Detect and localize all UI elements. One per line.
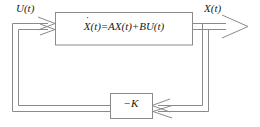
term-b: BU [139, 20, 154, 32]
plant-equation: ˙X(t)=AX(t)+BU(t) [56, 21, 192, 32]
term-a-argument: (t) [122, 20, 132, 32]
term-b-argument: (t) [154, 20, 164, 32]
output-arrowhead [222, 15, 248, 38]
state-derivative: ˙X [84, 21, 91, 32]
term-a: AX [108, 20, 121, 32]
gain-block-label: −K [110, 98, 152, 109]
derivative-dot-icon: ˙ [86, 16, 89, 26]
state-argument: (t) [91, 20, 101, 32]
diagram-canvas: U(t) X(t) −K ˙X(t)=AX(t)+BU(t) [0, 0, 260, 127]
input-signal-label: U(t) [16, 3, 34, 14]
output-signal-label: X(t) [204, 3, 221, 14]
